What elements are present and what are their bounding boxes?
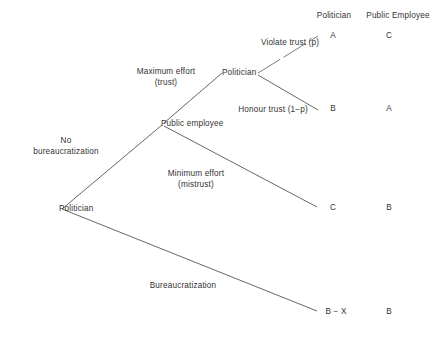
payoff-politician-honour-trust: B [330, 104, 336, 115]
payoff-public-employee-bureaucratization: B [386, 307, 392, 318]
game-tree-figure: { "figure": { "type": "extensive-form-ga… [0, 0, 440, 337]
node-label-root-politician: Politician [59, 204, 93, 215]
payoff-public-employee-violate-trust: C [386, 31, 392, 42]
branch-label-honour-trust: Honour trust (1−p) [238, 105, 308, 116]
branch-label-no-bureaucratization: No bureaucratization [33, 136, 99, 157]
payoff-public-employee-honour-trust: A [386, 104, 392, 115]
edge-minimum-effort [164, 126, 317, 207]
payoff-politician-minimum-effort: C [330, 203, 336, 214]
node-label-politician-second: Politician [222, 68, 256, 79]
column-header-public-employee: Public Employee [366, 11, 429, 22]
edge-bureaucratization [62, 209, 317, 311]
node-label-public-employee: Public employee [161, 119, 224, 130]
branch-label-minimum-effort: Minimum effort (mistrust) [168, 169, 224, 190]
payoff-politician-bureaucratization: B − X [325, 307, 346, 318]
branch-label-violate-trust: Violate trust (p) [261, 38, 319, 49]
column-header-politician: Politician [317, 11, 351, 22]
branch-label-bureaucratization: Bureaucratization [150, 281, 217, 292]
branch-label-maximum-effort: Maximum effort (trust) [137, 67, 196, 88]
payoff-public-employee-minimum-effort: B [386, 203, 392, 214]
payoff-politician-violate-trust: A [330, 31, 336, 42]
